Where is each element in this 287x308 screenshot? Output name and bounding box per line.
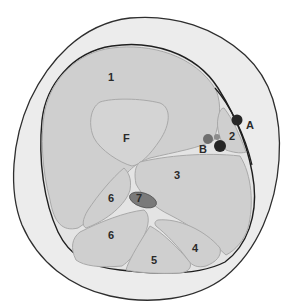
- thigh-cross-section: 1 F 2 A B 3 6 7 6 4 5: [0, 0, 287, 308]
- label-5: 5: [151, 254, 157, 266]
- vessel-a: [232, 115, 243, 126]
- vessel-b-nerve: [214, 134, 220, 140]
- label-3: 3: [174, 169, 180, 181]
- label-6-upper: 6: [108, 192, 114, 204]
- label-6-lower: 6: [108, 229, 114, 241]
- label-7: 7: [136, 192, 142, 204]
- label-b: B: [199, 143, 207, 155]
- label-4: 4: [192, 242, 199, 254]
- diagram-canvas: 1 F 2 A B 3 6 7 6 4 5: [0, 0, 287, 308]
- label-1: 1: [108, 71, 114, 83]
- label-f: F: [123, 132, 130, 144]
- vessel-b-artery: [214, 140, 226, 152]
- label-2: 2: [229, 130, 235, 142]
- label-a: A: [246, 119, 254, 131]
